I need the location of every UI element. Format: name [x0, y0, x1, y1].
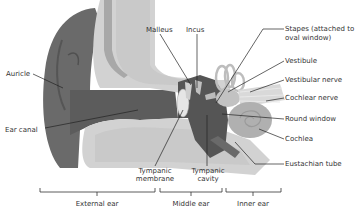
- label-malleus: Malleus: [146, 26, 173, 34]
- region-label-inner-ear: Inner ear: [237, 200, 269, 208]
- label-auricle: Auricle: [6, 70, 30, 78]
- region-brackets: [40, 188, 281, 196]
- label-tympanic-membrane-line1: Tympanic: [138, 167, 171, 175]
- label-tympanic-membrane-line2: membrane: [136, 175, 174, 183]
- label-round-window: Round window: [285, 115, 336, 123]
- label-vestibule: Vestibule: [285, 57, 317, 65]
- label-cochlea: Cochlea: [285, 135, 313, 143]
- label-incus: Incus: [186, 26, 204, 34]
- label-tympanic-cavity-line2: cavity: [197, 175, 218, 183]
- label-cochlear-nerve: Cochlear nerve: [285, 94, 338, 102]
- label-vestibular-nerve: Vestibular nerve: [285, 76, 342, 84]
- ear-anatomy-diagram: Auricle Ear canal Malleus Incus Stapes (…: [0, 0, 355, 212]
- cochlea-shape: [228, 102, 272, 138]
- label-ear-canal: Ear canal: [5, 126, 38, 134]
- region-label-external-ear: External ear: [76, 200, 119, 208]
- label-stapes-line1: Stapes (attached to: [285, 25, 354, 33]
- label-tympanic-cavity-line1: Tympanic: [191, 167, 224, 175]
- label-eustachian-tube: Eustachian tube: [285, 160, 342, 168]
- bone-texture-upper: [116, 0, 195, 86]
- region-label-middle-ear: Middle ear: [173, 200, 210, 208]
- label-stapes-line2: oval window): [285, 34, 331, 42]
